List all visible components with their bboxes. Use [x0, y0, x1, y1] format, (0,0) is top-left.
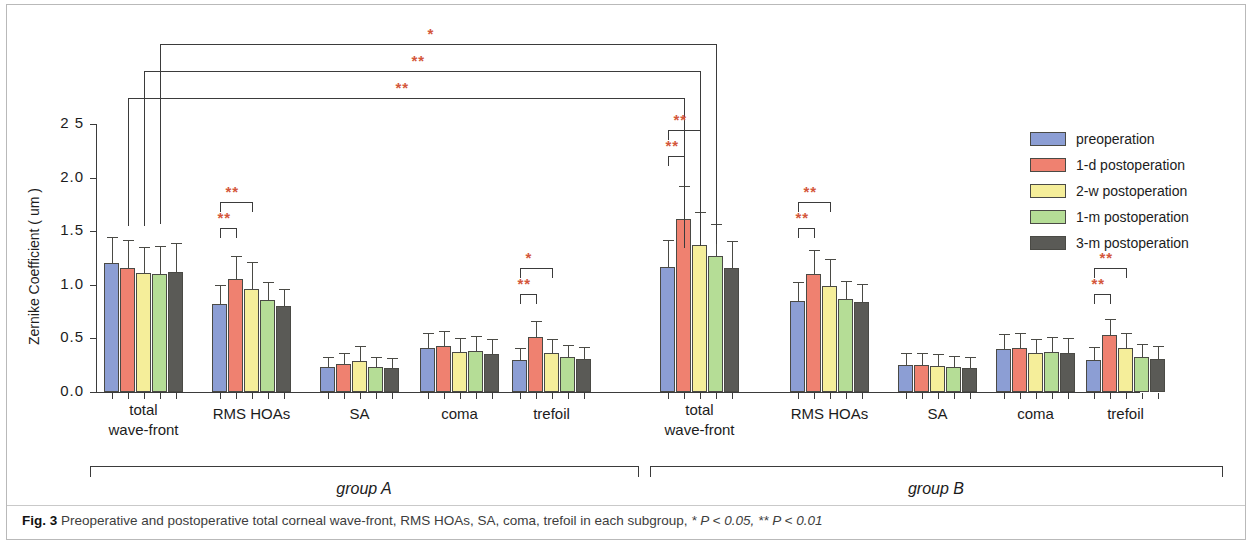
significance-stars: **	[218, 213, 232, 223]
significance-bracket-line	[668, 130, 700, 131]
bar	[436, 346, 451, 392]
x-tick	[284, 393, 285, 399]
error-bar-line	[846, 281, 847, 299]
error-bar-line	[798, 282, 799, 301]
x-tick	[360, 393, 361, 399]
y-tick-mark	[90, 178, 97, 179]
error-bar-cap	[857, 284, 868, 285]
significance-bracket-line	[520, 294, 536, 295]
error-bar-cap	[579, 347, 590, 348]
x-tick	[176, 393, 177, 399]
group-bracket-line	[650, 466, 1222, 467]
x-tick	[392, 393, 393, 399]
bar	[962, 368, 977, 392]
significance-stars: **	[226, 187, 240, 197]
significance-bracket-line	[798, 202, 830, 203]
bar	[1150, 359, 1165, 392]
error-bar-cap	[563, 345, 574, 346]
error-bar-line	[1052, 337, 1053, 352]
x-tick	[1110, 393, 1111, 399]
error-bar-line	[584, 347, 585, 359]
error-bar-cap	[901, 353, 912, 354]
bar	[708, 256, 723, 392]
x-tick	[476, 393, 477, 399]
error-bar-line	[328, 357, 329, 368]
y-tick-mark	[90, 124, 97, 125]
caption-sig-one: * P < 0.05,	[691, 513, 754, 528]
bar	[898, 365, 913, 392]
legend-swatch	[1030, 210, 1066, 224]
error-bar-line	[460, 338, 461, 352]
legend-item: 3-m postoperation	[1030, 232, 1189, 254]
group-bracket-tick	[90, 466, 91, 477]
error-bar-cap	[455, 338, 466, 339]
x-tick	[1036, 393, 1037, 399]
bar	[468, 351, 483, 392]
error-bar-line	[970, 357, 971, 369]
legend-label: 3-m postoperation	[1076, 235, 1189, 251]
bar	[512, 360, 527, 392]
error-bar-cap	[231, 256, 242, 257]
significance-stars: **	[674, 115, 688, 125]
x-tick	[798, 393, 799, 399]
legend-swatch	[1030, 132, 1066, 146]
x-tick	[428, 393, 429, 399]
error-bar-line	[1126, 333, 1127, 348]
caption-divider	[7, 505, 1245, 506]
bar	[692, 245, 707, 392]
legend-item: 1-d postoperation	[1030, 154, 1189, 176]
significance-bracket-line	[220, 202, 252, 203]
bar	[528, 337, 543, 392]
x-tick	[584, 393, 585, 399]
bar	[576, 359, 591, 392]
group-bracket-line	[90, 466, 638, 467]
x-tick	[684, 393, 685, 399]
error-bar-cap	[247, 262, 258, 263]
error-bar-line	[360, 346, 361, 361]
error-bar-cap	[547, 339, 558, 340]
significance-bracket-line	[1094, 268, 1126, 269]
bar-chart-plot: Zernike Coefficient ( um ) 0.00.51.01.52…	[0, 0, 1253, 545]
significance-stars: **	[396, 83, 410, 93]
error-bar-cap	[1063, 338, 1074, 339]
error-bar-cap	[531, 321, 542, 322]
legend-label: 1-d postoperation	[1076, 157, 1185, 173]
figure-caption: Fig. 3 Preoperative and postoperative to…	[22, 513, 1232, 528]
x-tick	[1004, 393, 1005, 399]
x-tick	[252, 393, 253, 399]
y-tick-label: 1.0	[38, 275, 84, 292]
bar	[838, 299, 853, 392]
significance-bracket-tick	[144, 71, 145, 226]
error-bar-cap	[171, 243, 182, 244]
x-tick	[922, 393, 923, 399]
x-tick	[328, 393, 329, 399]
group-label: group A	[304, 480, 424, 498]
x-tick	[1126, 393, 1127, 399]
significance-bracket-tick	[684, 156, 685, 166]
error-bar-cap	[139, 247, 150, 248]
significance-bracket-tick	[552, 268, 553, 278]
x-axis-category-label: RMS HOAs	[190, 404, 314, 424]
significance-bracket-tick	[1094, 294, 1095, 304]
error-bar-line	[862, 284, 863, 302]
error-bar-line	[814, 250, 815, 274]
error-bar-line	[376, 357, 377, 368]
error-bar-line	[176, 243, 177, 272]
bar	[244, 289, 259, 392]
x-tick	[970, 393, 971, 399]
legend-item: preoperation	[1030, 128, 1189, 150]
bar	[854, 302, 869, 392]
bar	[168, 272, 183, 392]
x-tick	[862, 393, 863, 399]
error-bar-line	[552, 339, 553, 353]
error-bar-line	[1158, 346, 1159, 359]
error-bar-line	[536, 321, 537, 337]
x-axis-category-label: RMS HOAs	[768, 404, 892, 424]
legend-label: preoperation	[1076, 131, 1155, 147]
x-tick	[830, 393, 831, 399]
x-tick	[236, 393, 237, 399]
significance-stars: **	[796, 213, 810, 223]
group-bracket-tick	[638, 466, 639, 477]
error-bar-line	[144, 247, 145, 273]
bar	[914, 365, 929, 392]
